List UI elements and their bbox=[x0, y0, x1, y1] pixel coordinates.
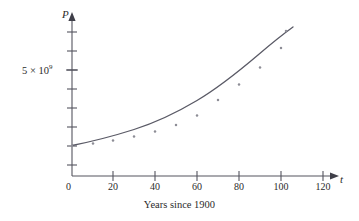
plot-canvas bbox=[0, 0, 359, 221]
y-axis-tick-label: 5 × 109 bbox=[22, 63, 52, 76]
fitted-curve bbox=[72, 27, 293, 146]
y-tick-label-exponent: 9 bbox=[49, 63, 53, 71]
data-point bbox=[280, 47, 283, 50]
data-point bbox=[238, 83, 241, 86]
x-axis-tick-label: 20 bbox=[108, 181, 118, 192]
x-axis-symbol-label: t bbox=[340, 173, 343, 185]
x-axis-arrowhead bbox=[330, 172, 339, 179]
data-point bbox=[217, 99, 220, 102]
figure-caption: Years since 1900 bbox=[0, 199, 359, 210]
data-point bbox=[175, 124, 178, 127]
data-points bbox=[71, 30, 288, 148]
y-tick-label-mantissa: 5 × 10 bbox=[22, 65, 49, 76]
x-axis-tick-label: 120 bbox=[316, 181, 331, 192]
data-point bbox=[92, 142, 95, 145]
data-point bbox=[154, 130, 157, 133]
data-point bbox=[71, 145, 74, 148]
data-point bbox=[196, 114, 199, 117]
x-axis-tick-label: 100 bbox=[274, 181, 289, 192]
data-point bbox=[112, 139, 115, 142]
data-point bbox=[133, 135, 136, 138]
x-axis-tick-label: 80 bbox=[234, 181, 244, 192]
y-axis-arrowhead bbox=[68, 12, 75, 21]
population-growth-figure: P t 5 × 109 0 20 40 60 80 100 120 Years … bbox=[0, 0, 359, 221]
data-point bbox=[285, 30, 288, 33]
data-point bbox=[259, 66, 262, 69]
x-axis-tick-label: 40 bbox=[150, 181, 160, 192]
origin-label: 0 bbox=[66, 181, 71, 192]
x-axis-tick-label: 60 bbox=[192, 181, 202, 192]
y-axis-symbol-label: P bbox=[62, 8, 69, 20]
